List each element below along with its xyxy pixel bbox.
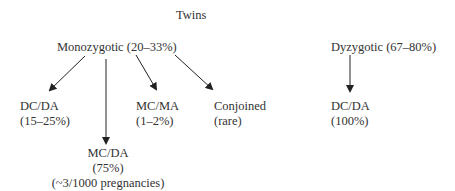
arrow-mz-to-mcma [136, 55, 156, 89]
branch-dyzygotic: Dyzygotic (67–80%) [331, 40, 436, 55]
leaf-note: (~3/1000 pregnancies) [46, 176, 170, 191]
leaf-percent: (rare) [214, 114, 266, 129]
leaf-mz-mcda: MC/DA (75%) (~3/1000 pregnancies) [46, 146, 170, 191]
leaf-mz-mcma: MC/MA (1–2%) [136, 99, 179, 129]
leaf-title: MC/MA [136, 99, 179, 114]
leaf-percent: (15–25%) [20, 114, 70, 129]
leaf-title: Conjoined [214, 99, 266, 114]
leaf-dz-dcda: DC/DA (100%) [331, 99, 370, 129]
root-node-twins: Twins [176, 8, 206, 23]
branch-label: Monozygotic (20–33%) [57, 40, 177, 54]
arrow-mz-to-conjoined [175, 55, 212, 89]
leaf-percent: (75%) [46, 161, 170, 176]
leaf-title: DC/DA [331, 99, 370, 114]
leaf-mz-conjoined: Conjoined (rare) [214, 99, 266, 129]
leaf-title: DC/DA [20, 99, 70, 114]
branch-label: Dyzygotic (67–80%) [331, 40, 436, 54]
leaf-percent: (1–2%) [136, 114, 179, 129]
leaf-mz-dcda: DC/DA (15–25%) [20, 99, 70, 129]
branch-monozygotic: Monozygotic (20–33%) [57, 40, 177, 55]
arrow-mz-to-dcda [50, 56, 85, 90]
leaf-percent: (100%) [331, 114, 370, 129]
leaf-title: MC/DA [46, 146, 170, 161]
root-label: Twins [176, 8, 206, 22]
